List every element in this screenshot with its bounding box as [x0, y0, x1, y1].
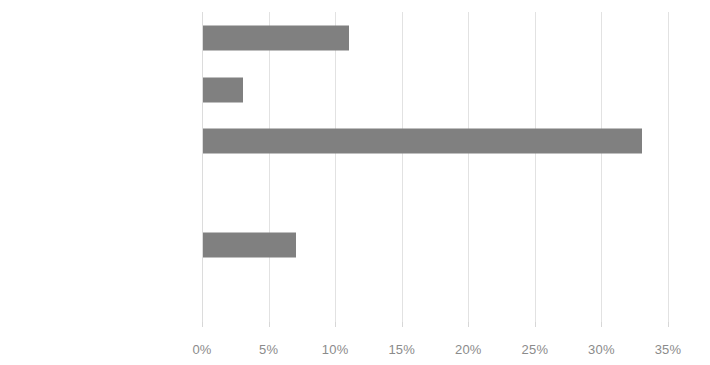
x-tick-label: 25% — [505, 342, 565, 357]
gridline-35% — [668, 12, 669, 322]
bar-row[interactable] — [202, 277, 668, 315]
bar-row[interactable] — [202, 174, 668, 212]
bar-chart: 0%5%10%15%20%25%30%35% Hispanic or Latin… — [0, 0, 710, 365]
bar[interactable] — [203, 232, 296, 257]
bar[interactable] — [203, 129, 642, 154]
x-tick-label: 15% — [372, 342, 432, 357]
gridline-25% — [535, 12, 536, 322]
bar[interactable] — [203, 77, 243, 102]
x-tick-label: 5% — [239, 342, 299, 357]
x-tick-label: 30% — [571, 342, 631, 357]
gridline-30% — [601, 12, 602, 322]
gridline-20% — [468, 12, 469, 322]
x-tick-label: 0% — [172, 342, 232, 357]
tick-mark-25% — [535, 322, 536, 327]
x-tick-label: 20% — [438, 342, 498, 357]
bar[interactable] — [203, 25, 349, 50]
tick-mark-30% — [601, 322, 602, 327]
gridline-5% — [269, 12, 270, 322]
tick-mark-5% — [269, 322, 270, 327]
gridline-0% — [202, 12, 203, 322]
tick-mark-10% — [335, 322, 336, 327]
tick-mark-20% — [468, 322, 469, 327]
gridline-15% — [402, 12, 403, 322]
bar-row[interactable] — [202, 71, 668, 109]
tick-mark-0% — [202, 322, 203, 327]
x-tick-label: 35% — [638, 342, 698, 357]
x-tick-label: 10% — [305, 342, 365, 357]
gridline-10% — [335, 12, 336, 322]
plot-area: 0%5%10%15%20%25%30%35% Hispanic or Latin… — [202, 12, 668, 322]
tick-mark-35% — [668, 322, 669, 327]
tick-mark-15% — [402, 322, 403, 327]
